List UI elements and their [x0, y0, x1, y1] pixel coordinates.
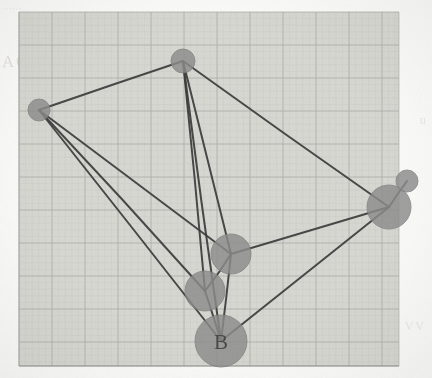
graph-node: [396, 170, 418, 192]
graph-node: [171, 49, 195, 73]
node-label: B: [214, 330, 228, 354]
graph-node: [211, 234, 251, 274]
graph-edge: [183, 61, 205, 291]
node-circle: [171, 49, 195, 73]
node-layer: B: [28, 49, 418, 367]
node-circle: [185, 271, 225, 311]
node-circle: [28, 99, 50, 121]
graph-node-B: B: [195, 315, 247, 367]
node-circle: [211, 234, 251, 274]
graph-node: [185, 271, 225, 311]
graph-edge: [231, 207, 389, 254]
graph-edge: [221, 207, 389, 341]
graph-edge: [39, 110, 205, 291]
scanned-paper: AGA ...... u VV B: [0, 0, 432, 378]
screenshot-canvas: AGA ...... u VV B: [0, 0, 432, 378]
graph-edge: [39, 61, 183, 110]
node-circle: [396, 170, 418, 192]
graph-drawing: B: [0, 0, 432, 378]
graph-node: [28, 99, 50, 121]
